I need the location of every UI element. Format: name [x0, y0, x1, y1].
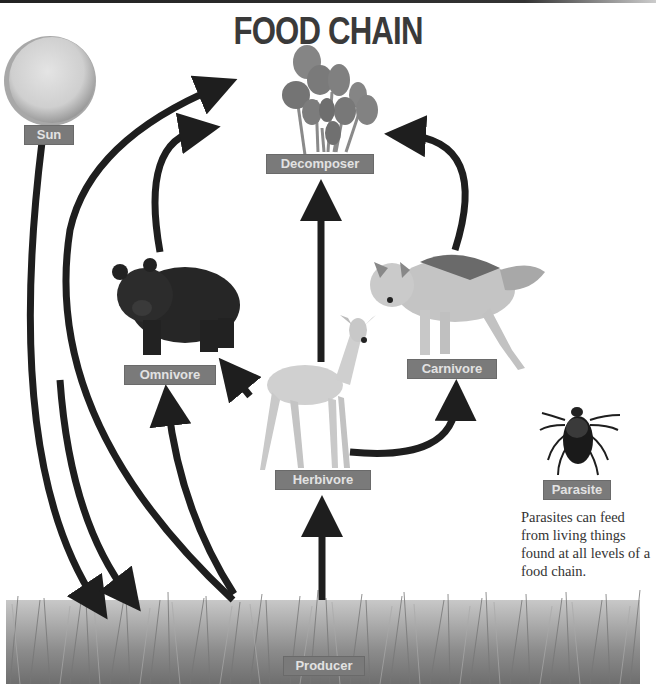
- sun-icon: [4, 36, 96, 126]
- sun-label: Sun: [24, 125, 74, 145]
- carnivore-label: Carnivore: [407, 359, 497, 379]
- arrow-herbivore-to-omnivore: [232, 374, 250, 396]
- arrows: [30, 87, 465, 602]
- diagram-canvas: [0, 0, 656, 689]
- herbivore-label: Herbivore: [275, 470, 371, 490]
- wolf-icon: [370, 255, 545, 370]
- tick-icon: [540, 407, 620, 475]
- arrow-carnivore-to-decomposer: [405, 135, 465, 250]
- omnivore-label: Omnivore: [124, 365, 216, 385]
- arrow-sun-to-producer: [30, 142, 96, 602]
- arrow-omnivore-to-decomposer: [155, 130, 200, 252]
- decomposer-label: Decomposer: [266, 154, 374, 174]
- bear-icon: [112, 258, 240, 355]
- parasite-note: Parasites can feed from living things fo…: [521, 508, 651, 580]
- producer-label: Producer: [283, 656, 365, 676]
- parasite-label: Parasite: [543, 480, 611, 500]
- mushroom-icon: [282, 45, 378, 155]
- arrow-herbivore-to-carnivore: [350, 400, 456, 453]
